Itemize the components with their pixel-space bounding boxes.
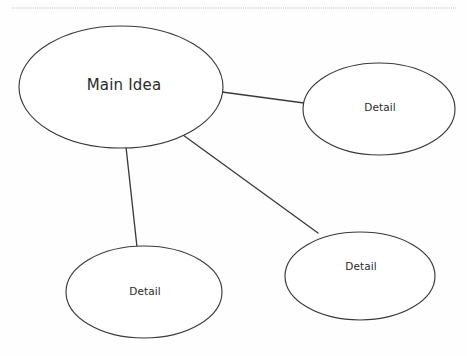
detail-bottom-right-label: Detail <box>345 260 377 272</box>
connector-main-to-detail-bottom-left <box>126 147 137 247</box>
main-idea-label: Main Idea <box>87 76 162 94</box>
detail-bottom-left-label: Detail <box>129 285 161 297</box>
diagram-canvas: Main Idea Detail Detail Detail <box>0 0 467 356</box>
node-detail-bottom-left[interactable]: Detail <box>66 246 222 338</box>
node-main-idea[interactable]: Main Idea <box>19 26 223 148</box>
connector-main-to-detail-right <box>222 92 304 103</box>
detail-right-label: Detail <box>364 101 396 113</box>
connector-main-to-detail-bottom-right <box>183 135 318 233</box>
concept-map-svg: Main Idea Detail Detail Detail <box>0 0 467 356</box>
detail-bottom-right-ellipse[interactable] <box>285 232 435 320</box>
node-detail-right[interactable]: Detail <box>303 63 455 155</box>
node-detail-bottom-right[interactable]: Detail <box>285 232 435 320</box>
